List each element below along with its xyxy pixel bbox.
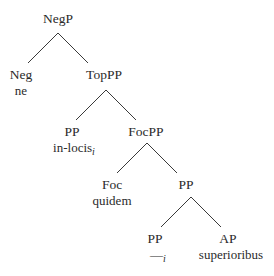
node-negp: NegP (43, 11, 73, 26)
node-pp3: PP (147, 231, 162, 246)
edge-negp-toppp (58, 33, 88, 63)
edge-pp2-ap (191, 197, 221, 227)
edge-focpp-pp2 (147, 143, 177, 173)
word-superioribus: superioribus (199, 247, 263, 262)
word-quidem: quidem (93, 193, 132, 208)
node-neg: Neg (10, 67, 33, 82)
trace-dash: — (150, 247, 163, 262)
node-toppp: TopPP (86, 67, 122, 82)
node-focpp: FocPP (128, 124, 163, 139)
node-foc: Foc (102, 177, 122, 192)
word-trace: —i (150, 247, 166, 266)
node-pp1: PP (64, 124, 79, 139)
edge-negp-neg (28, 33, 58, 63)
edge-pp2-pp3 (161, 197, 191, 227)
word-ne: ne (15, 83, 27, 98)
coindex: i (163, 253, 166, 264)
word-in-locis: in-locisi (53, 140, 95, 159)
edge-toppp-focpp (106, 90, 136, 120)
edge-toppp-pp1 (76, 90, 106, 120)
word-text: in-locis (53, 140, 92, 155)
node-ap: AP (219, 231, 236, 246)
coindex: i (92, 146, 95, 157)
node-pp2: PP (178, 177, 193, 192)
edge-focpp-foc (117, 143, 147, 173)
syntax-tree: NegP Neg ne TopPP PP in-locisi FocPP Foc… (0, 0, 274, 276)
